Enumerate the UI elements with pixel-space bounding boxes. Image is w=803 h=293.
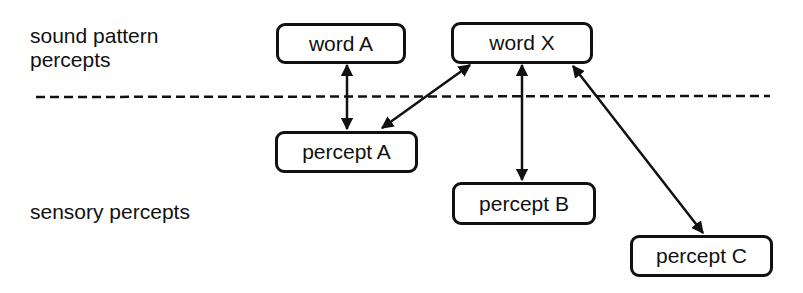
node-percept-a-label: percept A — [302, 140, 391, 164]
node-word-a: word A — [276, 23, 406, 64]
node-percept-a: percept A — [275, 131, 418, 173]
layer-separator-dashed-line — [36, 96, 770, 97]
node-percept-b-label: percept B — [479, 192, 569, 216]
node-word-x-label: word X — [489, 31, 554, 55]
node-word-x: word X — [451, 22, 593, 64]
node-percept-c-label: percept C — [656, 244, 747, 268]
node-percept-b: percept B — [452, 182, 596, 225]
node-word-a-label: word A — [309, 32, 373, 56]
node-percept-c: percept C — [630, 235, 773, 277]
